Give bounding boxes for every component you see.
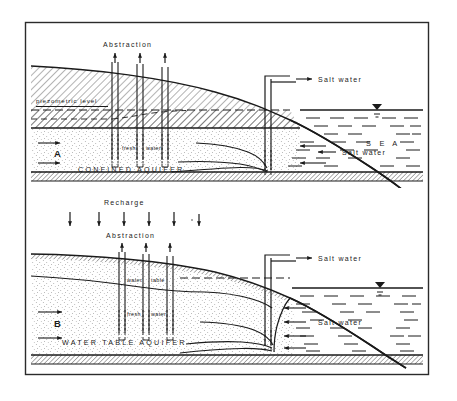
salt-water-top-label-b: Salt water: [318, 255, 362, 262]
recharge-arrows-b: [70, 212, 199, 226]
abstraction-arrows-a: [115, 53, 165, 63]
salt-water-top-group-b: Salt water: [296, 255, 362, 262]
panel-a: Abstraction piezometric level fresh wate…: [31, 41, 423, 196]
fresh-label-a: fresh: [122, 145, 136, 151]
sea-water-hatching-a: [288, 118, 421, 166]
abstraction-arrows-b: [122, 243, 170, 252]
salt-water-bottom-label-a: Salt water: [342, 149, 386, 156]
salt-water-bottom-label-b: Salt water: [318, 319, 362, 326]
water-label-a: water: [145, 145, 161, 151]
salt-water-top-group-a: Salt water: [296, 76, 362, 83]
panel-b: Recharge Abstraction: [31, 199, 423, 368]
abstraction-group-b: Abstraction: [106, 232, 170, 252]
abstraction-label-a: Abstraction: [103, 41, 152, 48]
recharge-group-b: Recharge: [70, 199, 199, 226]
piezometric-level-label-a: piezometric level: [36, 97, 97, 104]
saltwater-flow-arrows-a: [300, 146, 326, 163]
panel-label-a: A: [54, 148, 62, 159]
salt-water-bottom-group-a: Salt water: [318, 149, 386, 156]
water-table-aquifer-label: WATER TABLE AQUIFER: [62, 338, 187, 347]
sea-label-a: S E A: [366, 139, 401, 148]
water-table-label-right-b: table: [151, 277, 165, 283]
panel-label-b: B: [54, 318, 62, 329]
salt-water-top-label-a: Salt water: [318, 76, 362, 83]
water-table-label-left-b: water: [126, 277, 142, 283]
fresh-label-b: fresh: [127, 311, 141, 317]
abstraction-label-b: Abstraction: [106, 232, 155, 239]
figure-root: Abstraction piezometric level fresh wate…: [0, 0, 457, 401]
confined-aquifer-label: CONFINED AQUIFER: [78, 165, 184, 174]
bedrock-b: [31, 355, 423, 364]
water-label-b: water: [150, 311, 166, 317]
hydrogeology-diagram: Abstraction piezometric level fresh wate…: [0, 0, 457, 401]
abstraction-group-a: Abstraction: [103, 41, 165, 63]
recharge-label-b: Recharge: [104, 199, 145, 207]
